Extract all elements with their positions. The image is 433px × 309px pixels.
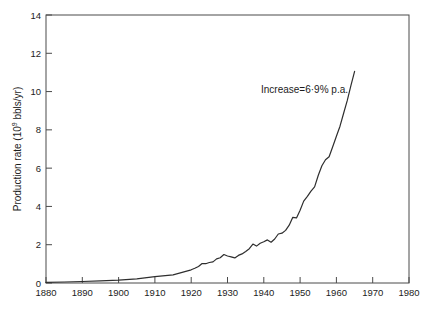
y-tick-label: 10	[30, 86, 41, 97]
oil-production-figure: 1880189019001910192019301940195019601970…	[0, 0, 433, 309]
x-tick-label: 1900	[108, 287, 129, 298]
x-tick-label: 1890	[72, 287, 93, 298]
y-tick-label: 4	[36, 201, 41, 212]
production-curve	[46, 71, 355, 282]
x-tick-label: 1880	[35, 287, 56, 298]
plot-frame	[46, 15, 409, 283]
x-tick-label: 1920	[181, 287, 202, 298]
x-tick-label: 1950	[290, 287, 311, 298]
x-tick-label: 1940	[253, 287, 274, 298]
y-tick-label: 2	[36, 239, 41, 250]
y-tick-label: 0	[36, 278, 41, 289]
x-tick-label: 1960	[326, 287, 347, 298]
y-tick-label: 14	[30, 10, 41, 21]
production-rate-chart: 1880189019001910192019301940195019601970…	[0, 0, 433, 309]
x-tick-label: 1970	[362, 287, 383, 298]
y-tick-label: 6	[36, 163, 41, 174]
x-tick-label: 1980	[398, 287, 419, 298]
y-axis-label: Production rate (109 bbls/yr)	[11, 87, 23, 212]
y-tick-label: 12	[30, 48, 41, 59]
y-tick-label: 8	[36, 124, 41, 135]
x-tick-label: 1930	[217, 287, 238, 298]
growth-rate-annotation: Increase=6·9% p.a.	[261, 84, 348, 95]
x-tick-label: 1910	[144, 287, 165, 298]
